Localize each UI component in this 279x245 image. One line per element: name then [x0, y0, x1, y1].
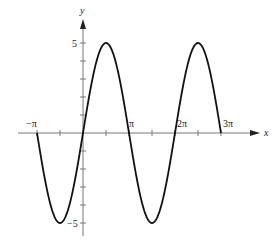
- x-tick-label-2pi: 2π: [177, 118, 187, 129]
- y-tick-label-neg5: −5: [67, 218, 78, 229]
- x-tick-label-pi: π: [129, 118, 134, 129]
- x-axis-arrow-icon: [250, 130, 260, 136]
- sine-chart: y x 5 −5 −π π 2π 3π: [0, 0, 279, 245]
- chart-canvas: y x 5 −5 −π π 2π 3π: [0, 0, 279, 245]
- x-tick-label-neg-pi: −π: [26, 118, 37, 129]
- y-axis-label: y: [79, 5, 85, 16]
- y-tick-label-5: 5: [72, 38, 77, 49]
- y-axis-arrow-icon: [80, 19, 86, 29]
- x-axis-label: x: [263, 127, 269, 138]
- x-tick-label-3pi: 3π: [223, 118, 233, 129]
